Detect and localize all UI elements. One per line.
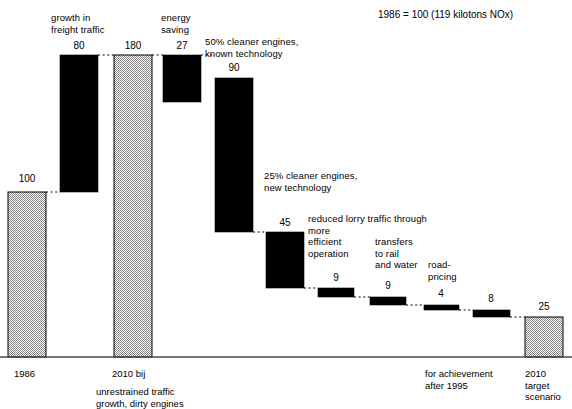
callout-cleaner-engines-new: 25% cleaner engines, new technology (264, 170, 357, 193)
value-label-6: 9 (316, 272, 356, 283)
axis-label-unrestrained: unrestrained traffic growth, dirty engin… (96, 386, 184, 409)
value-label-7: 9 (368, 280, 408, 291)
chart-title: 1986 = 100 (119 kilotons NOx) (378, 9, 513, 20)
value-label-9: 8 (471, 293, 511, 304)
bar-group (8, 55, 563, 357)
value-label-2: 180 (113, 40, 153, 51)
bar-10 (525, 317, 563, 357)
value-label-5: 45 (265, 217, 305, 228)
callout-cleaner-engines-known: 50% cleaner engines, known technology (205, 36, 298, 59)
value-label-0: 100 (7, 173, 47, 184)
axis-label-2010-bij: 2010 bij (112, 368, 145, 380)
bar-1 (60, 55, 98, 192)
bar-2 (114, 55, 152, 357)
bar-7 (370, 297, 406, 305)
callout-road-pricing: road- pricing (428, 259, 457, 282)
axis-label-2010-target: 2010 target scenario (525, 368, 561, 403)
bar-3 (163, 55, 201, 102)
value-label-4: 90 (214, 62, 254, 73)
callout-growth-in-freight-traffic: growth in freight traffic (51, 12, 105, 35)
bar-9 (473, 310, 510, 317)
value-label-3: 27 (162, 40, 202, 51)
value-label-8: 4 (421, 288, 461, 299)
value-label-10: 25 (524, 301, 564, 312)
bar-5 (266, 232, 304, 288)
bar-0 (8, 192, 46, 357)
value-label-1: 80 (59, 40, 99, 51)
callout-energy-saving: energy saving (161, 12, 191, 35)
waterfall-chart (0, 0, 572, 409)
axis-label-1986: 1986 (14, 368, 35, 380)
callout-transfers-to-rail-water: transfers to rail and water (375, 236, 418, 271)
bar-8 (424, 305, 459, 310)
axis-label-for-achievement: for achievement after 1995 (425, 368, 493, 391)
bar-6 (318, 288, 354, 297)
bar-4 (215, 78, 253, 232)
